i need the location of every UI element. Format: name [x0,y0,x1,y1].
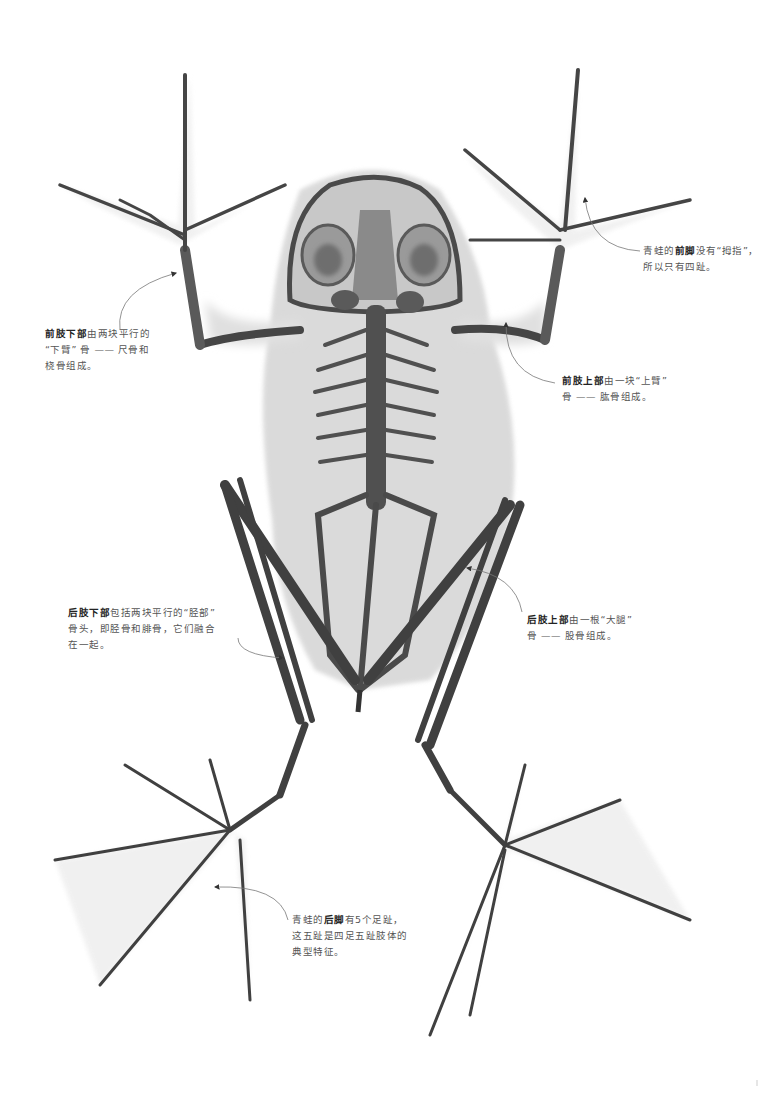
page-edge-mark [756,1080,758,1086]
annotation-hindlimb-lower: 后肢下部包括两块平行的“胫部” 骨头，即胫骨和腓骨，它们融合 在一起。 [68,605,215,653]
annotation-forelimb-upper: 前肢上部由一块“上臂” 骨 —— 肱骨组成。 [562,373,667,405]
annotation-hindlimb-upper: 后肢上部由一根“大腿” 骨 —— 股骨组成。 [527,612,632,644]
annotation-hindfoot: 青蛙的后脚有5个足趾， 这五趾是四足五趾肢体的 典型特征。 [292,912,408,960]
annotation-forefoot: 青蛙的前脚没有“拇指”， 所以只有四趾。 [643,243,759,275]
callout-forelimb-lower [120,273,176,330]
annotation-forelimb-lower: 前肢下部由两块平行的 “下臂” 骨 —— 尺骨和 桡骨组成。 [45,326,150,374]
frog-skeleton-diagram: 前肢下部由两块平行的 “下臂” 骨 —— 尺骨和 桡骨组成。 青蛙的前脚没有“拇… [0,0,774,1111]
callout-hindfoot [215,887,288,920]
skull [290,177,461,313]
